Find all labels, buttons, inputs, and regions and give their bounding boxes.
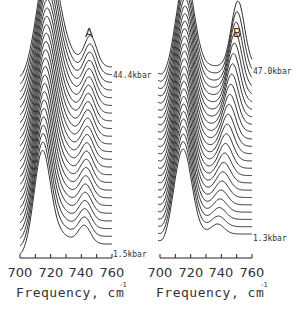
panel-b-tick-720: 720: [179, 265, 204, 280]
panel-a-tick-700: 700: [8, 265, 33, 280]
panel-a-x-label-superscript: -1: [120, 281, 127, 289]
panel-a-tick-760: 760: [100, 265, 125, 280]
panel-a-x-axis: [20, 254, 112, 258]
panel-b-tick-740: 740: [209, 265, 234, 280]
panel-a-label: A: [85, 26, 94, 40]
panel-a-top-pressure: 44.4kbar: [113, 71, 152, 80]
panel-b-bottom-pressure: 1.3kbar: [253, 234, 287, 243]
panel-b-top-pressure: 47.0kbar: [253, 67, 292, 76]
panel-b-x-label: Frequency, cm: [156, 285, 264, 300]
panel-a-tick-720: 720: [39, 265, 64, 280]
panel-a-x-label: Frequency, cm: [16, 285, 124, 300]
panel-a-bottom-pressure: 1.5kbar: [113, 250, 147, 259]
panel-b-label: B: [233, 26, 241, 40]
panel-b-x-axis: [160, 254, 252, 258]
panel-b-tick-760: 760: [240, 265, 265, 280]
panel-a-curves: [20, 0, 112, 254]
panel-b-tick-700: 700: [148, 265, 173, 280]
panel-b-x-label-superscript: -1: [261, 281, 268, 289]
panel-a-tick-740: 740: [69, 265, 94, 280]
spectra-figure: A B 44.4kbar 1.5kbar 47.0kbar 1.3kbar 70…: [0, 0, 302, 310]
